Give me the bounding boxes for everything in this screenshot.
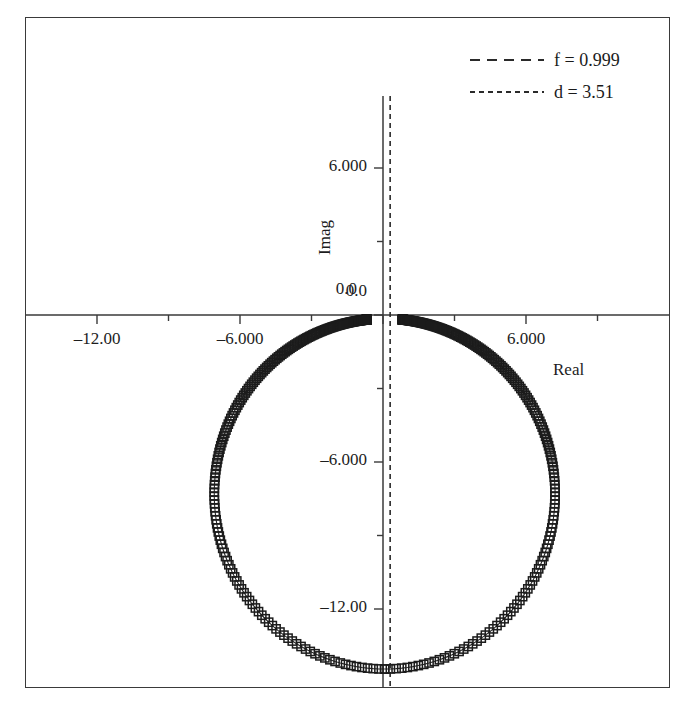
legend: f = 0.999 d = 3.51: [470, 44, 660, 108]
x-axis-title: Real: [553, 360, 584, 380]
x-tick-label-neg6: ‒6.000: [217, 329, 264, 349]
legend-label-f: f = 0.999: [554, 50, 620, 71]
legend-entry-f: f = 0.999: [470, 44, 660, 76]
data-series-group: [210, 316, 559, 674]
x-tick-label-neg12: ‒12.00: [74, 329, 121, 349]
y-axis-title: Imag: [315, 220, 335, 255]
chart-figure: ‒12.00 ‒6.000 0.0 6.000 6.000 0.0 ‒6.000…: [0, 0, 689, 717]
legend-label-d: d = 3.51: [554, 82, 614, 103]
y-tick-label-neg6: ‒6.000: [320, 450, 367, 470]
y-tick-label-neg12: ‒12.00: [320, 597, 367, 617]
y-tick-label-zero: 0.0: [346, 281, 367, 301]
legend-swatch-dash-short: [470, 91, 544, 93]
legend-entry-d: d = 3.51: [470, 76, 660, 108]
y-tick-label-pos6: 6.000: [329, 156, 367, 176]
legend-swatch-dash-long: [470, 59, 544, 61]
x-tick-label-pos6: 6.000: [507, 329, 545, 349]
